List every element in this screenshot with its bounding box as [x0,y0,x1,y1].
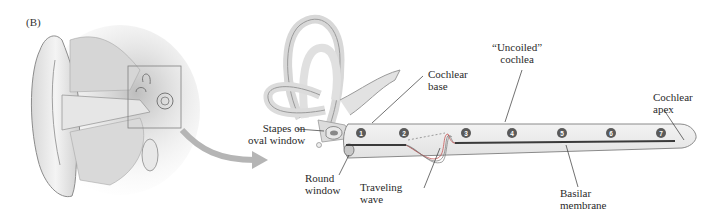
label-basilar-membrane: Basilar membrane [560,187,606,211]
marker-6: 6 [609,130,613,137]
label-traveling-wave: Traveling wave [360,181,402,205]
label-round-window: Round window [305,172,340,196]
marker-4: 4 [510,130,514,137]
label-stapes-oval-window: Stapes on oval window [248,122,305,146]
marker-1: 1 [359,130,363,137]
label-cochlear-apex: Cochlear apex [653,91,693,115]
marker-2: 2 [402,130,406,137]
cochlea-figure: (B) [0,0,720,218]
marker-7: 7 [659,130,663,137]
marker-5: 5 [560,130,564,137]
label-uncoiled-cochlea: “Uncoiled” cochlea [492,41,542,65]
label-cochlear-base: Cochlear base [428,68,468,92]
marker-3: 3 [464,130,468,137]
